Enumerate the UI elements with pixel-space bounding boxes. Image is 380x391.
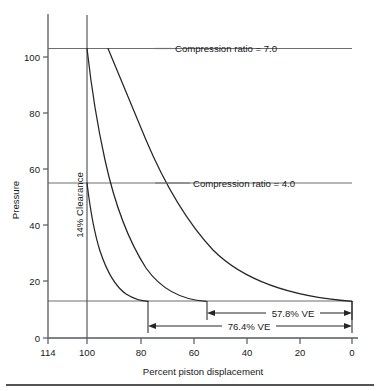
clearance-annotation-label: 14% Clearance [74, 172, 85, 238]
y-axis-title: Pressure [10, 181, 21, 219]
x-tick-label-20: 20 [295, 347, 306, 358]
chart-figure: 100 80 60 40 20 0 Pressure 114 100 80 60… [0, 0, 380, 391]
y-tick-label-0: 0 [35, 333, 40, 344]
x-tick-label-114: 114 [40, 347, 56, 358]
y-tick-label-60: 60 [29, 164, 40, 175]
chart-background [0, 0, 380, 391]
x-tick-label-60: 60 [189, 347, 200, 358]
x-axis-title: Percent piston displacement [143, 366, 264, 377]
dimension-label-ve-large: 76.4% VE [228, 321, 271, 332]
y-tick-label-20: 20 [29, 276, 40, 287]
dimension-label-ve-small: 57.8% VE [272, 308, 315, 319]
y-tick-label-40: 40 [29, 220, 40, 231]
x-tick-label-80: 80 [136, 347, 147, 358]
callout-label-compression-ratio-4: Compression ratio = 4.0 [193, 178, 295, 189]
x-tick-label-100: 100 [79, 347, 95, 358]
x-tick-label-40: 40 [242, 347, 253, 358]
y-tick-label-100: 100 [24, 52, 40, 63]
x-tick-label-0: 0 [349, 347, 354, 358]
y-tick-label-80: 80 [29, 108, 40, 119]
pressure-vs-piston-displacement-chart: 100 80 60 40 20 0 Pressure 114 100 80 60… [0, 0, 380, 391]
callout-label-compression-ratio-7: Compression ratio = 7.0 [175, 43, 277, 54]
